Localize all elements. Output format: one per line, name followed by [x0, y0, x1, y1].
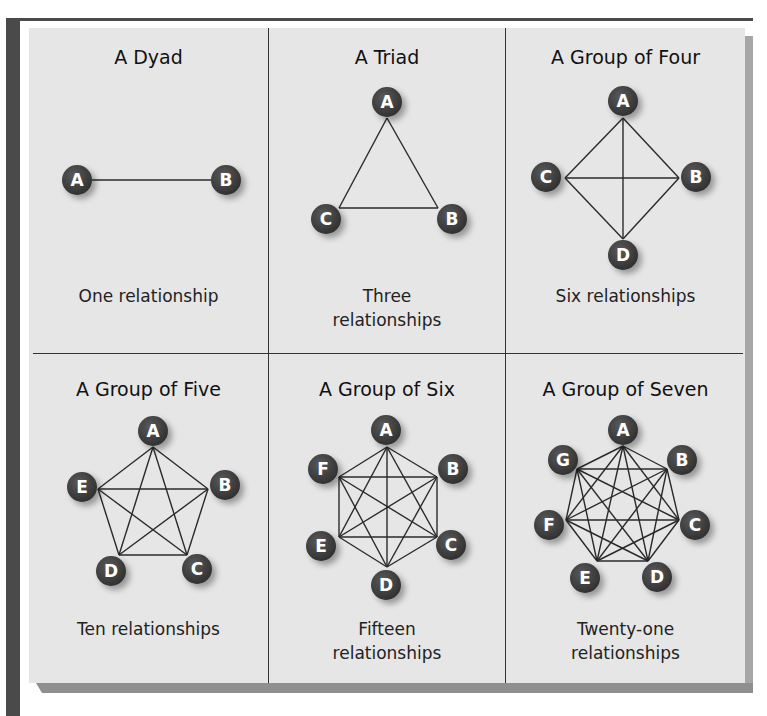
relationship-edge-BC	[187, 489, 208, 555]
edges-layer	[92, 118, 679, 567]
node-label: A	[616, 420, 630, 440]
person-node-E: E	[306, 531, 336, 561]
node-label: D	[379, 575, 393, 595]
person-node-C: C	[182, 554, 212, 584]
person-node-B: B	[667, 445, 697, 475]
relationship-edge-DF	[339, 477, 387, 567]
relationship-edge-AB	[387, 118, 438, 208]
person-node-D: D	[371, 570, 401, 600]
person-node-C: C	[680, 510, 710, 540]
node-label: D	[616, 245, 630, 265]
relationship-edge-AC	[565, 118, 623, 178]
person-node-A: A	[608, 86, 638, 116]
node-label: B	[446, 209, 459, 229]
node-label: E	[579, 568, 591, 588]
relationship-edge-DE	[98, 489, 119, 555]
person-node-A: A	[62, 165, 92, 195]
node-label: C	[689, 515, 701, 535]
relationship-edge-AE	[98, 447, 153, 489]
person-node-E: E	[67, 472, 97, 502]
relationship-edge-AB	[387, 447, 437, 477]
relationship-edge-CG	[577, 469, 679, 520]
node-label: A	[380, 92, 394, 112]
node-label: E	[76, 477, 88, 497]
node-label: A	[379, 420, 393, 440]
person-node-D: D	[608, 240, 638, 270]
person-node-D: D	[96, 556, 126, 586]
relationship-edge-CE	[98, 489, 187, 555]
node-label: F	[317, 459, 329, 479]
relationship-edge-DF	[566, 520, 648, 561]
person-node-F: F	[308, 454, 338, 484]
relationship-edge-AF	[339, 447, 387, 477]
node-label: C	[445, 535, 457, 555]
person-node-A: A	[138, 416, 168, 446]
person-node-D: D	[642, 562, 672, 592]
person-node-B: B	[438, 454, 468, 484]
person-node-A: A	[372, 87, 402, 117]
node-label: C	[191, 559, 203, 579]
person-node-C: C	[311, 204, 341, 234]
node-label: C	[540, 167, 552, 187]
person-node-B: B	[437, 204, 467, 234]
person-node-C: C	[436, 530, 466, 560]
relationship-edge-CE	[597, 520, 679, 561]
relationship-edge-AC	[153, 447, 187, 555]
relationship-edge-AD	[119, 447, 153, 555]
relationship-edge-BD	[623, 178, 679, 239]
person-node-B: B	[211, 165, 241, 195]
person-node-F: F	[534, 510, 564, 540]
node-label: D	[650, 567, 664, 587]
relationship-edge-AB	[623, 446, 667, 469]
node-label: E	[315, 536, 327, 556]
node-label: A	[616, 91, 630, 111]
node-label: F	[543, 515, 555, 535]
node-label: A	[146, 421, 160, 441]
person-node-C: C	[531, 162, 561, 192]
node-label: C	[320, 209, 332, 229]
relationship-edge-DE	[339, 537, 387, 567]
relationship-edge-CD	[387, 537, 437, 567]
person-node-B: B	[210, 470, 240, 500]
person-node-G: G	[548, 445, 578, 475]
node-label: B	[676, 450, 689, 470]
node-label: D	[104, 561, 118, 581]
node-label: A	[70, 170, 84, 190]
node-label: B	[690, 167, 703, 187]
relationship-edge-AG	[577, 446, 623, 469]
person-node-E: E	[570, 563, 600, 593]
relationship-edge-CD	[565, 178, 623, 239]
relationship-edge-AB	[623, 118, 679, 178]
node-label: B	[220, 170, 233, 190]
relationship-edge-AC	[339, 118, 387, 208]
person-node-A: A	[371, 415, 401, 445]
relationship-graphs: ABABCABCDABCDEABCDEFABCDEFG	[0, 0, 767, 716]
node-label: G	[556, 450, 570, 470]
person-node-A: A	[608, 415, 638, 445]
person-node-B: B	[681, 162, 711, 192]
relationship-edge-BD	[119, 489, 208, 555]
node-label: B	[219, 475, 232, 495]
node-label: B	[447, 459, 460, 479]
relationship-edge-AB	[153, 447, 208, 489]
